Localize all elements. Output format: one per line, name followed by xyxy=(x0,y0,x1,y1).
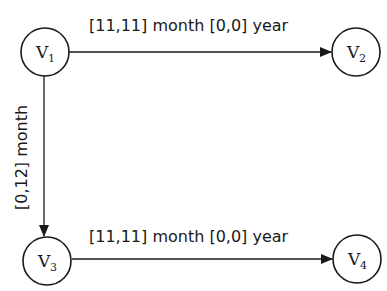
node-v1-subscript: 1 xyxy=(48,52,55,65)
node-v2-subscript: 2 xyxy=(359,52,366,65)
node-v4-letter: V xyxy=(347,249,361,269)
temporal-graph-diagram: [11,11] month [0,0] year [0,12] month [1… xyxy=(0,0,387,291)
node-v1: V 1 xyxy=(21,28,69,76)
node-v3: V 3 xyxy=(23,237,71,285)
edge-v1-v3: [0,12] month xyxy=(12,76,44,236)
node-v3-subscript: 3 xyxy=(50,261,57,274)
edge-v1-v3-label: [0,12] month xyxy=(12,105,31,210)
edge-v1-v2: [11,11] month [0,0] year xyxy=(69,16,331,52)
node-v1-letter: V xyxy=(35,42,49,62)
node-v2: V 2 xyxy=(332,28,380,76)
node-v4: V 4 xyxy=(333,235,381,283)
edge-v3-v4: [11,11] month [0,0] year xyxy=(72,227,332,259)
edge-v3-v4-label: [11,11] month [0,0] year xyxy=(89,227,289,246)
node-v2-letter: V xyxy=(346,42,360,62)
node-v3-letter: V xyxy=(37,251,51,271)
node-v4-subscript: 4 xyxy=(360,259,367,272)
edge-v1-v2-label: [11,11] month [0,0] year xyxy=(89,16,289,35)
